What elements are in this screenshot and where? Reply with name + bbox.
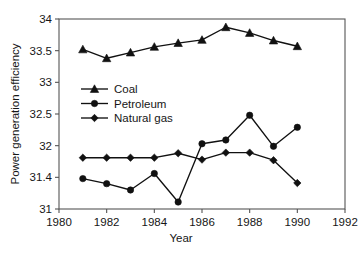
data-point xyxy=(175,199,181,205)
data-point xyxy=(198,156,205,163)
legend: CoalPetroleumNatural gas xyxy=(81,83,173,124)
x-tick-label: 1986 xyxy=(189,216,215,228)
data-point xyxy=(151,154,158,161)
legend-swatch-marker xyxy=(91,100,97,106)
line-chart: 3131.43232.53333.53419801982198419861988… xyxy=(0,0,363,259)
data-point xyxy=(294,124,300,130)
data-point xyxy=(127,187,133,193)
data-point xyxy=(198,36,206,44)
legend-label: Petroleum xyxy=(114,98,166,110)
data-point xyxy=(270,143,276,149)
y-tick-label: 32 xyxy=(39,140,52,152)
data-point xyxy=(79,45,87,53)
y-tick-label: 33.5 xyxy=(30,45,52,57)
y-tick-label: 31 xyxy=(39,203,52,215)
x-tick-label: 1990 xyxy=(285,216,311,228)
y-tick-label: 34 xyxy=(39,13,52,25)
x-tick-label: 1984 xyxy=(142,216,168,228)
legend-label: Coal xyxy=(114,83,138,95)
series-line xyxy=(83,115,297,202)
legend-swatch-marker xyxy=(91,114,98,121)
data-point xyxy=(103,180,109,186)
x-tick-label: 1992 xyxy=(332,216,358,228)
data-point xyxy=(174,150,181,157)
data-point xyxy=(246,112,252,118)
y-tick-label: 31.4 xyxy=(30,171,53,183)
series-line xyxy=(83,153,297,183)
data-point xyxy=(222,149,229,156)
x-tick-label: 1982 xyxy=(94,216,120,228)
y-tick-label: 33 xyxy=(39,76,52,88)
data-point xyxy=(199,141,205,147)
series-coal xyxy=(79,23,302,62)
data-point xyxy=(222,23,230,31)
data-point xyxy=(80,175,86,181)
data-point xyxy=(103,154,110,161)
legend-label: Natural gas xyxy=(114,112,173,124)
x-tick-label: 1988 xyxy=(237,216,263,228)
chart-container: 3131.43232.53333.53419801982198419861988… xyxy=(0,0,363,259)
data-point xyxy=(79,154,86,161)
data-point xyxy=(151,170,157,176)
data-point xyxy=(223,137,229,143)
x-axis-title: Year xyxy=(169,232,192,244)
series-line xyxy=(83,27,297,58)
y-tick-label: 32.5 xyxy=(30,108,52,120)
x-tick-label: 1980 xyxy=(46,216,72,228)
data-point xyxy=(246,149,253,156)
plot-frame xyxy=(59,19,345,209)
series-natural-gas xyxy=(79,149,301,187)
y-axis-title: Power generation efficiency xyxy=(9,43,21,184)
data-point xyxy=(127,154,134,161)
